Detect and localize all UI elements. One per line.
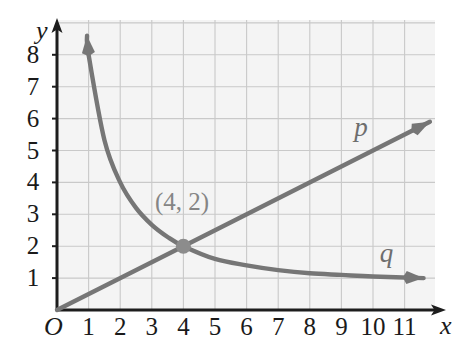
graph-figure: y x O 1234567891011 12345678 pq (4, 2) — [0, 0, 465, 356]
y-tick-label-6: 6 — [18, 106, 48, 131]
y-tick-label-4: 4 — [18, 169, 48, 194]
y-tick-label-2: 2 — [18, 233, 48, 258]
coordinate-plane-svg — [0, 0, 465, 356]
intersection-point-marker — [176, 239, 191, 254]
y-tick-label-3: 3 — [18, 201, 48, 226]
curve-label-q: q — [380, 240, 394, 267]
origin-label: O — [44, 314, 63, 340]
curve-label-p: p — [354, 114, 368, 141]
x-tick-label-11: 11 — [385, 314, 425, 339]
y-tick-label-7: 7 — [18, 74, 48, 99]
y-tick-label-1: 1 — [18, 265, 48, 290]
x-axis-label: x — [440, 313, 452, 339]
intersection-point-label: (4, 2) — [155, 189, 209, 214]
y-tick-label-5: 5 — [18, 138, 48, 163]
y-tick-label-8: 8 — [18, 42, 48, 67]
